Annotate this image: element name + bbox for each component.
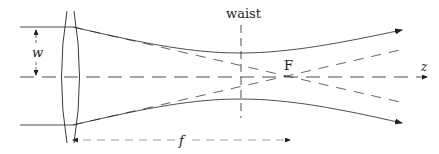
beam-envelope-top — [73, 27, 402, 53]
focus-label: F — [284, 58, 293, 73]
waist-label: waist — [226, 6, 262, 21]
geometric-ray-top — [73, 27, 400, 102]
axis-label: z — [420, 60, 428, 74]
beam-radius-label: w — [32, 45, 43, 60]
focal-length-label: f — [178, 133, 186, 148]
geometric-ray-bottom — [73, 50, 400, 125]
beam-envelope-bottom — [73, 99, 402, 125]
beam-diagram: z waist F w f — [0, 0, 439, 154]
